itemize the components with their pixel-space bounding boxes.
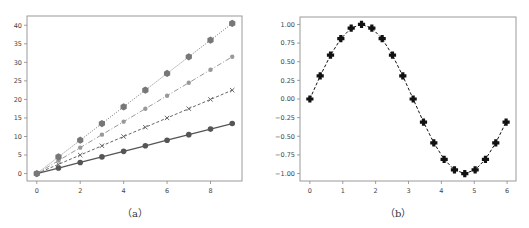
series-y-2-5x [35, 88, 235, 176]
plus-marker [482, 156, 489, 163]
series-y-3-5x [35, 55, 235, 176]
chart-b-sine-wave: 0123456−1.00−0.75−0.50−0.250.000.250.500… [265, 0, 529, 228]
hexagon-marker [229, 20, 235, 27]
series-sin-x- [306, 21, 509, 177]
x-marker [100, 144, 104, 148]
plus-marker [492, 139, 499, 146]
plus-marker [441, 156, 448, 163]
y-tick-label: 25 [14, 77, 22, 85]
x-tick-label: 4 [439, 187, 443, 195]
x-marker [208, 97, 212, 101]
plus-marker [503, 118, 510, 125]
plus-marker [317, 72, 324, 79]
y-tick-label: −0.75 [275, 151, 295, 159]
hexagon-marker [121, 103, 127, 110]
x-marker [143, 125, 147, 129]
y-tick-label: 0.50 [281, 58, 295, 66]
x-marker [121, 134, 125, 138]
y-tick-label: 35 [14, 40, 22, 48]
circle-marker [230, 55, 234, 59]
y-tick-label: 10 [14, 133, 22, 141]
x-tick-label: 8 [208, 187, 212, 195]
circle-marker [229, 121, 235, 127]
plus-marker [430, 139, 437, 146]
chart-b-plot: 0123456−1.00−0.75−0.50−0.250.000.250.500… [265, 0, 529, 228]
plus-marker [461, 170, 468, 177]
series-y-1-5x [34, 121, 235, 177]
x-tick-label: 1 [341, 187, 345, 195]
chart-a-plot: 024680510152025303540 [0, 0, 265, 228]
y-tick-label: 30 [14, 59, 22, 67]
y-tick-label: 15 [14, 114, 22, 122]
y-tick-label: 40 [14, 22, 22, 30]
plot-frame [300, 17, 516, 181]
x-tick-label: 0 [308, 187, 312, 195]
x-tick-label: 3 [406, 187, 410, 195]
x-tick-label: 6 [165, 187, 169, 195]
x-marker [230, 88, 234, 92]
chart-b-caption: （b） [385, 205, 411, 220]
y-tick-label: 0.75 [281, 39, 295, 47]
circle-marker [78, 145, 82, 149]
y-tick-label: −1.00 [275, 170, 295, 178]
y-tick-label: 0.25 [281, 77, 295, 85]
plus-marker [358, 21, 365, 28]
x-tick-label: 6 [505, 187, 509, 195]
x-tick-label: 2 [78, 187, 82, 195]
plus-marker [420, 118, 427, 125]
hexagon-marker [164, 70, 170, 77]
circle-marker [143, 106, 147, 110]
circle-marker [186, 132, 192, 138]
circle-marker [121, 119, 125, 123]
circle-marker [121, 149, 127, 155]
y-tick-label: 1.00 [281, 21, 295, 29]
plus-marker [327, 52, 334, 59]
y-tick-label: 5 [18, 151, 22, 159]
circle-marker [100, 132, 104, 136]
plus-marker [306, 95, 313, 102]
circle-marker [208, 126, 214, 132]
circle-marker [143, 143, 149, 149]
hexagon-marker [77, 137, 83, 144]
circle-marker [165, 94, 169, 98]
y-tick-label: 0 [18, 170, 22, 178]
y-tick-label: −0.25 [275, 114, 295, 122]
chart-a-caption: （a） [122, 205, 148, 220]
circle-marker [99, 154, 105, 160]
y-tick-label: 20 [14, 96, 22, 104]
x-marker [187, 106, 191, 110]
series-y-4-5x [34, 20, 236, 177]
x-tick-label: 0 [35, 187, 39, 195]
x-marker [165, 116, 169, 120]
x-tick-label: 2 [374, 187, 378, 195]
circle-marker [77, 160, 83, 166]
x-marker [78, 153, 82, 157]
hexagon-marker [99, 120, 105, 127]
y-tick-label: −0.50 [275, 133, 295, 141]
y-tick-label: 0.00 [281, 95, 295, 103]
x-tick-label: 5 [472, 187, 476, 195]
hexagon-marker [186, 53, 192, 60]
plus-marker [348, 25, 355, 32]
plus-marker [410, 95, 417, 102]
circle-marker [208, 68, 212, 72]
plus-marker [399, 72, 406, 79]
plus-marker [389, 52, 396, 59]
hexagon-marker [34, 170, 40, 177]
circle-marker [187, 81, 191, 85]
hexagon-marker [207, 37, 213, 44]
chart-a-linear-series: 024680510152025303540 （a） [0, 0, 265, 228]
x-tick-label: 4 [122, 187, 126, 195]
circle-marker [164, 137, 170, 143]
hexagon-marker [142, 87, 148, 94]
plus-marker [368, 25, 375, 32]
